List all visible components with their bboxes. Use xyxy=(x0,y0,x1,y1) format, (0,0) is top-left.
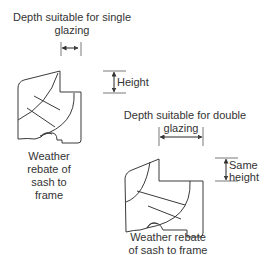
single-depth-label-line2: glazing xyxy=(55,24,90,36)
single-rebate-label-line4: frame xyxy=(35,189,63,201)
double-rebate-label-line1: Weather rebate xyxy=(130,231,206,243)
double-glazing-section: Depth suitable for double glazing xyxy=(124,109,259,255)
double-sash-profile xyxy=(125,159,203,237)
double-depth-label-line1: Depth suitable for double xyxy=(124,109,246,121)
double-depth-label-line2: glazing xyxy=(164,122,199,134)
single-sash-profile xyxy=(18,71,81,143)
single-depth-label-line1: Depth suitable for single xyxy=(13,11,131,23)
single-rebate-label-line2: rebate of xyxy=(27,163,71,175)
single-height-label: Height xyxy=(117,76,149,88)
glazing-rebate-diagram: Depth suitable for single glazing xyxy=(0,0,266,255)
single-rebate-label-line1: Weather xyxy=(28,150,70,162)
double-height-label-line2: height xyxy=(229,171,259,183)
double-rebate-label-line2: of sash to frame xyxy=(129,244,208,255)
double-height-label-line1: Same xyxy=(229,159,258,171)
single-rebate-label-line3: sash to xyxy=(31,176,66,188)
single-depth-dimension xyxy=(61,42,81,56)
